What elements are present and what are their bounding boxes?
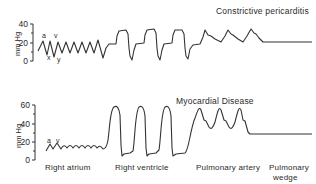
top-tick-0: 0 — [10, 56, 28, 66]
position-label-right-atrium: Right atrium — [45, 163, 91, 172]
top-wave-label-x: x — [47, 54, 51, 61]
pressure-tracings-figure — [0, 0, 316, 184]
top-tick-40: 40 — [10, 19, 28, 29]
top-pressure-trace — [38, 29, 312, 60]
top-chart-title: Constrictive pericarditis — [216, 6, 309, 16]
top-y-axis — [30, 24, 33, 61]
top-wave-label-y: y — [57, 56, 61, 63]
bottom-tick-20: 20 — [12, 137, 30, 147]
position-label-pulmonary-artery: Pulmonary artery — [196, 163, 260, 172]
top-tick-20: 20 — [10, 38, 28, 48]
position-label-pulmonary-wedge-line1: Pulmonary — [269, 163, 309, 172]
position-label-right-ventricle: Right ventricle — [115, 163, 169, 172]
bottom-pressure-trace — [46, 106, 312, 156]
bottom-wave-label-v: v — [56, 137, 60, 144]
top-wave-label-v: v — [54, 32, 58, 39]
bottom-y-axis — [32, 105, 35, 160]
position-label-pulmonary-wedge-line2: wedge — [273, 173, 298, 182]
top-wave-label-a: a — [42, 32, 46, 39]
bottom-wave-label-a: a — [47, 137, 51, 144]
bottom-tick-60: 60 — [12, 100, 30, 110]
bottom-tick-40: 40 — [12, 119, 30, 129]
bottom-tick-0: 0 — [12, 155, 30, 165]
bottom-chart-title: Myocardial Disease — [176, 96, 254, 106]
